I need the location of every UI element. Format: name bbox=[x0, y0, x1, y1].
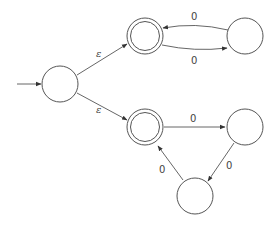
state-q3-accepting bbox=[127, 109, 163, 145]
state-q1-accepting bbox=[127, 18, 163, 54]
label-q3-q4: 0 bbox=[190, 113, 196, 124]
transition-q2-q1 bbox=[163, 25, 228, 30]
label-q4-q5: 0 bbox=[226, 160, 232, 171]
label-epsilon-top: ε bbox=[96, 48, 101, 59]
state-q5 bbox=[177, 178, 213, 214]
label-q2-q1: 0 bbox=[191, 11, 197, 22]
state-q2 bbox=[227, 18, 263, 54]
label-q5-q3: 0 bbox=[159, 164, 165, 175]
label-q1-q2: 0 bbox=[191, 55, 197, 66]
label-epsilon-bottom: ε bbox=[96, 104, 101, 115]
state-diagram: ε ε 0 0 0 0 0 bbox=[0, 0, 280, 225]
state-q0 bbox=[42, 66, 78, 102]
transition-q0-q3 bbox=[77, 93, 127, 120]
state-q4 bbox=[227, 109, 263, 145]
transition-q0-q1 bbox=[77, 44, 127, 75]
transition-q1-q2 bbox=[162, 45, 227, 49]
